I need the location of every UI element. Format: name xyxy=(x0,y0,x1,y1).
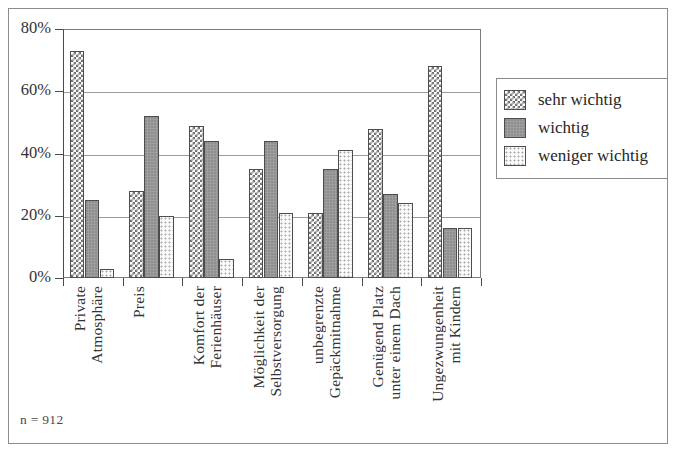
bar-wichtig xyxy=(383,194,398,278)
x-axis-label: unter einem Dach xyxy=(386,286,403,399)
bar-wichtig xyxy=(264,141,279,278)
legend-item: sehr wichtig xyxy=(504,86,661,114)
sample-size-note: n = 912 xyxy=(20,412,63,428)
bar-sehr-wichtig xyxy=(249,169,264,278)
legend-swatch-weniger-wichtig xyxy=(504,146,526,166)
x-axis-label: Preis xyxy=(130,286,147,318)
bar-group xyxy=(182,29,242,278)
bar-sehr-wichtig xyxy=(189,126,204,279)
bar-group xyxy=(302,29,362,278)
bar-group xyxy=(421,29,481,278)
legend-item: weniger wichtig xyxy=(504,142,661,170)
y-axis-tick-label: 20% xyxy=(21,207,51,223)
legend-swatch-wichtig xyxy=(504,118,526,138)
y-axis-tick-mark xyxy=(55,216,63,217)
legend-label: wichtig xyxy=(538,118,589,138)
x-axis-tick-mark xyxy=(242,278,243,286)
bar-weniger-wichtig xyxy=(458,228,473,278)
y-axis-tick-label: 0% xyxy=(29,269,51,285)
bar-sehr-wichtig xyxy=(129,191,144,278)
x-axis-label: Private xyxy=(71,286,88,331)
bar-sehr-wichtig xyxy=(308,213,323,278)
legend-swatch-sehr-wichtig xyxy=(504,90,526,110)
y-axis-tick-label: 40% xyxy=(21,145,51,161)
x-axis-label: Ferienhäuser xyxy=(207,286,224,368)
x-axis-tick-mark xyxy=(302,278,303,286)
x-axis-label: Komfort der xyxy=(190,286,207,365)
x-axis-tick-mark xyxy=(63,278,64,286)
bar-wichtig xyxy=(85,200,100,278)
chart-legend: sehr wichtigwichtigweniger wichtig xyxy=(496,78,668,179)
x-axis-label: Möglichkeit der xyxy=(250,286,267,388)
x-axis-label: Atmosphäre xyxy=(88,286,105,364)
x-axis-tick-mark xyxy=(123,278,124,286)
bar-weniger-wichtig xyxy=(398,203,413,278)
y-axis-tick-mark xyxy=(55,154,63,155)
bar-wichtig xyxy=(204,141,219,278)
bar-groups xyxy=(63,29,481,278)
bar-sehr-wichtig xyxy=(70,51,85,278)
legend-label: sehr wichtig xyxy=(538,90,622,110)
bar-group xyxy=(123,29,183,278)
legend-label: weniger wichtig xyxy=(538,146,648,166)
x-axis-tick-mark xyxy=(421,278,422,286)
bar-wichtig xyxy=(443,228,458,278)
bar-group xyxy=(242,29,302,278)
bar-weniger-wichtig xyxy=(279,213,294,278)
legend-item: wichtig xyxy=(504,114,661,142)
y-axis-tick-mark xyxy=(55,278,63,279)
y-axis: 0%20%40%60%80% xyxy=(0,0,63,290)
bar-sehr-wichtig xyxy=(368,129,383,278)
bar-wichtig xyxy=(144,116,159,278)
chart-figure: 0%20%40%60%80% PrivateAtmosphärePreisKom… xyxy=(0,0,675,452)
bar-weniger-wichtig xyxy=(100,269,115,278)
x-axis-label: Ungezwungenheit xyxy=(429,286,446,402)
bar-sehr-wichtig xyxy=(428,66,443,278)
bar-group xyxy=(63,29,123,278)
x-axis-label: unbegrenzte xyxy=(309,286,326,364)
bar-wichtig xyxy=(323,169,338,278)
y-axis-tick-label: 80% xyxy=(21,20,51,36)
x-axis-tick-mark xyxy=(481,278,482,286)
y-axis-tick-mark xyxy=(55,29,63,30)
x-axis-tick-mark xyxy=(362,278,363,286)
bar-weniger-wichtig xyxy=(219,259,234,278)
x-axis-label: Selbstversorgung xyxy=(267,286,284,397)
x-axis-label: Gepäckmitnahme xyxy=(326,286,343,398)
x-axis-labels: PrivateAtmosphärePreisKomfort derFerienh… xyxy=(63,286,481,446)
x-axis-tick-mark xyxy=(182,278,183,286)
y-axis-tick-label: 60% xyxy=(21,82,51,98)
x-axis-label: Genügend Platz xyxy=(369,286,386,387)
bar-group xyxy=(362,29,422,278)
x-axis-label: mit Kindern xyxy=(446,286,463,364)
y-axis-tick-mark xyxy=(55,91,63,92)
bar-weniger-wichtig xyxy=(159,216,174,278)
bar-weniger-wichtig xyxy=(338,150,353,278)
